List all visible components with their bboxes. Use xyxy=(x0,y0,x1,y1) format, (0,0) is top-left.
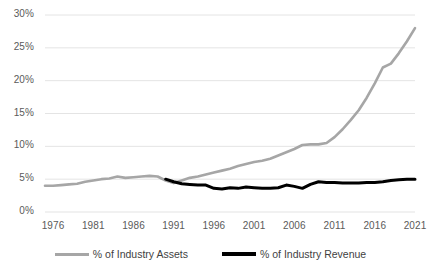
y-axis-tick-label: 5% xyxy=(4,172,34,183)
x-axis-tick-label: 1986 xyxy=(113,220,153,231)
y-axis-tick-label: 15% xyxy=(4,107,34,118)
chart-legend: % of Industry Assets % of Industry Reven… xyxy=(0,248,421,260)
legend-item-assets[interactable]: % of Industry Assets xyxy=(55,248,188,260)
data-series-group xyxy=(45,28,415,189)
legend-label-assets: % of Industry Assets xyxy=(93,248,188,260)
series-line-assets xyxy=(45,28,415,186)
y-axis-tick-label: 0% xyxy=(4,205,34,216)
x-axis-tick-label: 1996 xyxy=(194,220,234,231)
legend-item-revenue[interactable]: % of Industry Revenue xyxy=(222,248,366,260)
x-axis-tick-label: 2006 xyxy=(274,220,314,231)
x-axis-tick-label: 2001 xyxy=(234,220,274,231)
x-axis-tick-label: 2016 xyxy=(355,220,395,231)
x-axis-tick-label: 2021 xyxy=(395,220,431,231)
y-axis-tick-label: 20% xyxy=(4,74,34,85)
y-axis-tick-label: 30% xyxy=(4,8,34,19)
x-axis-tick-label: 1991 xyxy=(154,220,194,231)
x-axis-tick-label: 1976 xyxy=(33,220,73,231)
legend-line-swatch-assets xyxy=(55,253,89,256)
legend-label-revenue: % of Industry Revenue xyxy=(260,248,366,260)
x-axis-tick-label: 2011 xyxy=(315,220,355,231)
series-line-revenue xyxy=(166,179,415,189)
x-axis-tick-label: 1981 xyxy=(73,220,113,231)
legend-line-swatch-revenue xyxy=(222,252,256,256)
y-axis-tick-label: 25% xyxy=(4,41,34,52)
y-axis-tick-label: 10% xyxy=(4,139,34,150)
